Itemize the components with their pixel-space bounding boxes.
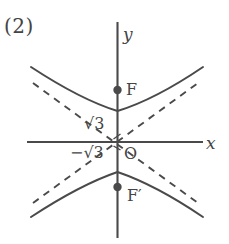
- focus-upper-label: F: [126, 82, 137, 98]
- vertex-upper-label: √3: [84, 116, 104, 132]
- vertex-lower-label: −√3: [70, 145, 104, 161]
- focus-upper-point: [113, 86, 121, 94]
- y-axis-label: y: [123, 26, 133, 43]
- x-axis-label: x: [206, 135, 216, 152]
- hyperbola-figure: (2) y x F F′ O √3 −√3: [0, 0, 229, 244]
- figure-canvas: [0, 0, 229, 244]
- origin-label: O: [124, 146, 137, 162]
- problem-number-label: (2): [4, 16, 34, 36]
- focus-lower-label: F′: [127, 188, 142, 204]
- focus-lower-point: [113, 183, 121, 191]
